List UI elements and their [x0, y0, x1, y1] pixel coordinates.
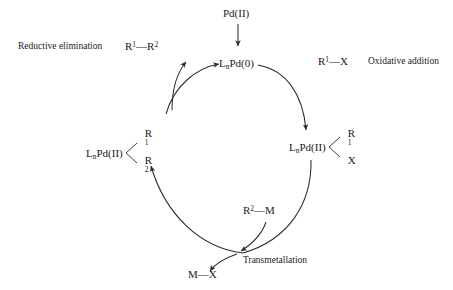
step-label-oxidative-addition: Oxidative addition: [368, 57, 439, 67]
organohalide-bond: —: [329, 55, 340, 67]
catalytic-cycle-diagram: Pd(II) LnPd(0) Reductive elimination R1—…: [0, 0, 453, 290]
reductive-elimination-text: Reductive elimination: [18, 41, 102, 51]
step-label-reductive-elimination: Reductive elimination: [18, 42, 102, 52]
organometallic-right-symbol: M: [265, 204, 275, 216]
organometallic-bond: —: [254, 204, 265, 216]
species-coupled-product: R1—R2: [125, 41, 158, 52]
species-organohalide: R1—X: [318, 56, 348, 67]
transmetallation-ligand-group: R1 R2: [145, 128, 152, 177]
species-active-catalyst: LnPd(0): [219, 58, 254, 69]
catalyst-metal-label: Pd(0): [229, 57, 253, 69]
oxidative-metal-label: Pd(II): [299, 141, 325, 153]
transmetallation-complex-core: LnPd(II): [86, 147, 123, 159]
arc-transmetallation-to-complex: [151, 166, 243, 253]
branch-arrow-organometallic-in: [241, 222, 266, 251]
species-organometallic-reagent: R2—M: [243, 205, 275, 216]
oxidative-bond-lines: [328, 134, 341, 160]
arc-catalyst-to-oxidative-addition: [258, 65, 306, 130]
metal-halide-right-symbol: X: [209, 268, 217, 280]
species-metal-halide: M—X: [188, 269, 217, 280]
oxidative-ligand-group: R1 X: [348, 128, 356, 166]
organohalide-right-symbol: X: [340, 55, 348, 67]
product-right-superscript: 2: [154, 40, 158, 49]
branch-arrow-product-out: [172, 62, 186, 110]
catalyst-ligand-symbol: L: [219, 57, 226, 69]
oxidative-addition-text: Oxidative addition: [368, 56, 439, 66]
species-oxidative-addition-complex: LnPd(II) R1 X: [289, 128, 356, 166]
transmetallation-bond-lines: [125, 140, 138, 166]
metal-halide-bond: —: [198, 268, 209, 280]
species-transmetallation-complex: LnPd(II) R1 R2: [86, 128, 152, 177]
transmetallation-ligand-symbol: L: [86, 147, 93, 159]
oxidative-ligand-symbol: L: [289, 141, 296, 153]
transmetallation-text: Transmetallation: [243, 255, 307, 265]
oxidative-ligand-top: R1: [348, 128, 356, 150]
transmetallation-ligand-top: R1: [145, 128, 152, 150]
step-label-transmetallation: Transmetallation: [243, 256, 307, 266]
precatalyst-label: Pd(II): [223, 7, 249, 19]
transmetallation-metal-label: Pd(II): [96, 147, 122, 159]
species-precatalyst: Pd(II): [223, 8, 249, 19]
metal-halide-left-symbol: M: [188, 268, 198, 280]
oxidative-ligand-bottom: X: [348, 155, 356, 166]
oxidative-addition-complex-core: LnPd(II): [289, 141, 326, 153]
transmetallation-ligand-bottom: R2: [145, 155, 152, 177]
product-bond: —: [136, 40, 147, 52]
